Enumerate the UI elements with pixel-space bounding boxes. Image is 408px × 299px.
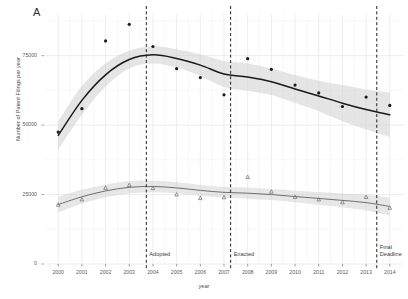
y-tick-label-25000: 25000	[23, 191, 37, 197]
patent-filings-chart: A Number of Patent Filings per year year…	[0, 0, 408, 299]
data-point-series-1-2001	[80, 107, 83, 110]
data-point-series-1-2003	[128, 23, 131, 26]
data-point-series-1-2009	[270, 68, 273, 71]
data-point-series-1-2007	[222, 93, 225, 96]
annotation-label-enacted: Enacted	[234, 251, 255, 258]
x-tick-label-2014: 2014	[375, 269, 405, 275]
plot-area	[0, 0, 408, 299]
data-point-series-1-2010	[293, 84, 296, 87]
annotation-label-adopted: Adopted	[149, 251, 170, 258]
data-point-series-1-2002	[104, 39, 107, 42]
data-point-series-1-2014	[388, 104, 391, 107]
data-point-series-1-2013	[365, 95, 368, 98]
y-tick-label-0: 0	[34, 260, 37, 266]
data-point-series-1-2011	[317, 91, 320, 94]
data-point-series-1-2008	[246, 57, 249, 60]
y-tick-label-50000: 50000	[23, 121, 37, 127]
y-tick-label-75000: 75000	[23, 52, 37, 58]
data-point-series-1-2012	[341, 105, 344, 108]
annotation-label-final-deadline: FinalDeadline	[380, 244, 402, 258]
data-point-series-1-2000	[57, 130, 60, 133]
data-point-series-1-2004	[151, 45, 154, 48]
data-point-series-1-2006	[199, 76, 202, 79]
data-point-series-1-2005	[175, 67, 178, 70]
